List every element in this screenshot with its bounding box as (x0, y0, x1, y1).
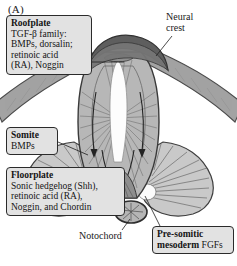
label-notochord: Notochord (79, 230, 122, 241)
label-neural-crest-line-1: Neural (166, 11, 193, 22)
callout-presomitic-line-1: mesoderm FGFs (157, 240, 229, 251)
label-neural-crest: Neural crest (166, 11, 193, 33)
callout-roofplate-line-1: TGF-β family: (11, 29, 87, 40)
callout-roofplate-line-2: BMPs, dorsalin; (11, 39, 87, 50)
callout-roofplate-title: Roofplate (11, 18, 87, 29)
callout-floorplate-line-3: Noggin, and Chordin (11, 202, 120, 213)
callout-floorplate-line-2: retinoic acid (RA), (11, 191, 120, 202)
callout-floorplate: Floorplate Sonic hedgehog (Shh), retinoi… (6, 167, 125, 216)
panel-label: (A) (8, 3, 24, 15)
callout-roofplate-line-4: (RA), Noggin (11, 60, 87, 71)
figure-panel-a: (A) Roofplate TGF-β family: BMPs, dorsal… (0, 0, 237, 266)
callout-somite-line-1: BMPs (11, 141, 53, 152)
callout-presomitic-fgfs: FGFs (202, 240, 223, 250)
callout-floorplate-line-1: Sonic hedgehog (Shh), (11, 181, 120, 192)
callout-presomitic-title: Pre-somitic (157, 229, 229, 240)
label-neural-crest-line-2: crest (166, 22, 185, 33)
callout-somite-title: Somite (11, 130, 53, 141)
callout-floorplate-title: Floorplate (11, 170, 120, 181)
callout-presomitic-mesoderm: Pre-somitic mesoderm FGFs (152, 226, 234, 254)
callout-roofplate-line-3: retinoic acid (11, 50, 87, 61)
callout-presomitic-bold-word: mesoderm (157, 240, 199, 250)
leader-neural-crest (156, 36, 172, 56)
callout-roofplate: Roofplate TGF-β family: BMPs, dorsalin; … (6, 15, 92, 75)
callout-somite: Somite BMPs (6, 127, 58, 155)
